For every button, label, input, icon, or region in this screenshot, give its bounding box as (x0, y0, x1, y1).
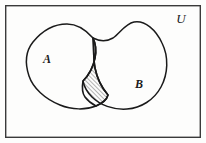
universe-label: U (176, 11, 187, 26)
set-a-label: A (42, 52, 51, 66)
set-b-label: B (134, 77, 143, 91)
universe-frame (6, 6, 201, 138)
venn-diagram-canvas: A B U (0, 0, 206, 143)
venn-diagram-figure: A B U (0, 0, 206, 143)
